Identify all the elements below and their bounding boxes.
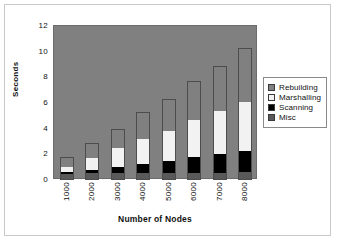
bar-segment-rebuilding	[112, 130, 124, 149]
x-tick-slot: 2000	[79, 181, 105, 215]
bar-slot	[207, 26, 233, 180]
bar-segment-rebuilding	[137, 113, 149, 139]
bar-slot	[80, 26, 106, 180]
bar-segment-scanning	[188, 157, 200, 173]
y-axis-tick-label: 8	[43, 72, 48, 81]
x-tick-slot: 5000	[155, 181, 181, 215]
bar-segment-misc	[188, 173, 200, 179]
legend-item[interactable]: Scanning	[268, 103, 321, 112]
stacked-bar[interactable]	[85, 143, 99, 180]
y-axis-tick-label: 2	[43, 149, 48, 158]
legend-swatch-marshalling	[268, 94, 275, 101]
bar-segment-marshalling	[137, 139, 149, 165]
x-tick-slot: 1000	[53, 181, 79, 215]
stacked-bar[interactable]	[238, 48, 252, 180]
legend-item[interactable]: Misc	[268, 113, 321, 122]
bar-segment-rebuilding	[61, 158, 73, 167]
y-axis-title: Seconds	[11, 62, 20, 97]
legend-item[interactable]: Rebuilding	[268, 83, 321, 92]
x-axis-tick-label: 1000	[61, 182, 70, 201]
bar-segment-marshalling	[239, 102, 251, 151]
bar-segment-marshalling	[188, 120, 200, 157]
bar-slot	[233, 26, 259, 180]
x-axis-tick-label: 8000	[240, 182, 249, 201]
x-tick-slot: 4000	[130, 181, 156, 215]
y-axis-tick-label: 12	[39, 21, 49, 30]
bar-segment-marshalling	[112, 148, 124, 167]
bar-segment-misc	[61, 174, 73, 179]
bar-segment-scanning	[137, 164, 149, 173]
chart-frame: Seconds 024681012 1000200030004000500060…	[4, 4, 331, 236]
bar-slot	[54, 26, 80, 180]
stacked-bar[interactable]	[60, 157, 74, 180]
y-axis-tick-label: 10	[39, 46, 49, 55]
stacked-bar[interactable]	[136, 112, 150, 180]
bar-segment-rebuilding	[163, 100, 175, 131]
bar-slot	[156, 26, 182, 180]
bar-segment-misc	[86, 173, 98, 179]
bar-segment-scanning	[163, 161, 175, 173]
x-tick-slot: 7000	[206, 181, 232, 215]
x-axis-tick-label: 2000	[87, 182, 96, 201]
x-axis-tick-label: 7000	[214, 182, 223, 201]
y-axis-tick-label: 0	[43, 175, 48, 184]
plot-area	[53, 25, 257, 179]
legend-swatch-misc	[268, 114, 275, 121]
bar-segment-marshalling	[86, 158, 98, 170]
bar-slot	[105, 26, 131, 180]
bar-segment-misc	[163, 173, 175, 179]
bar-segment-misc	[214, 173, 226, 179]
bar-segment-scanning	[239, 151, 251, 172]
chart-legend: RebuildingMarshallingScanningMisc	[263, 77, 327, 128]
x-axis-tick-label: 6000	[189, 182, 198, 201]
y-axis-tick-label: 6	[43, 98, 48, 107]
x-axis-tick-label: 5000	[163, 182, 172, 201]
stacked-bar[interactable]	[213, 66, 227, 180]
bar-segment-misc	[239, 172, 251, 179]
bar-segment-marshalling	[163, 131, 175, 161]
stacked-bar[interactable]	[111, 129, 125, 180]
bar-segment-misc	[112, 173, 124, 179]
x-axis-tick-label: 4000	[138, 182, 147, 201]
bar-segment-rebuilding	[188, 82, 200, 120]
stacked-bar[interactable]	[187, 81, 201, 180]
x-axis-title: Number of Nodes	[53, 214, 257, 224]
bar-segment-scanning	[214, 154, 226, 173]
x-tick-slot: 6000	[181, 181, 207, 215]
bar-segment-rebuilding	[214, 67, 226, 111]
legend-item[interactable]: Marshalling	[268, 93, 321, 102]
bar-segment-marshalling	[214, 111, 226, 154]
bar-segment-misc	[137, 173, 149, 179]
bar-segment-rebuilding	[86, 144, 98, 158]
x-axis-tick-label: 3000	[112, 182, 121, 201]
y-axis: Seconds 024681012	[5, 25, 53, 179]
bar-series-container	[54, 26, 258, 180]
legend-item-label: Marshalling	[279, 93, 321, 102]
x-axis: 10002000300040005000600070008000	[53, 181, 257, 215]
legend-item-label: Misc	[279, 113, 296, 122]
plot-wrapper	[53, 25, 257, 183]
legend-item-label: Scanning	[279, 103, 313, 112]
x-tick-slot: 8000	[232, 181, 258, 215]
x-tick-slot: 3000	[104, 181, 130, 215]
legend-item-label: Rebuilding	[279, 83, 318, 92]
bar-slot	[131, 26, 157, 180]
legend-swatch-rebuilding	[268, 84, 275, 91]
stacked-bar[interactable]	[162, 99, 176, 180]
y-axis-tick-label: 4	[43, 123, 48, 132]
bar-slot	[182, 26, 208, 180]
bar-segment-rebuilding	[239, 49, 251, 102]
legend-swatch-scanning	[268, 104, 275, 111]
